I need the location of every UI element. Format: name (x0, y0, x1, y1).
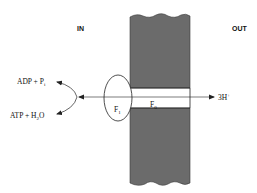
label-out: OUT (232, 25, 248, 32)
membrane-lower (130, 108, 190, 185)
atp-synthase-diagram: IN OUT F1 F0 ADP + Pi ATP + H2O 3H+ (0, 0, 257, 193)
curve-to-adp (57, 82, 77, 97)
label-adp-pi: ADP + Pi (17, 77, 46, 87)
label-f0: F0 (150, 100, 157, 110)
membrane-upper (130, 14, 190, 88)
curve-to-atp (57, 97, 77, 114)
label-3h-plus: 3H+ (218, 93, 230, 102)
label-atp-h2o: ATP + H2O (10, 111, 45, 121)
label-in: IN (77, 25, 84, 32)
